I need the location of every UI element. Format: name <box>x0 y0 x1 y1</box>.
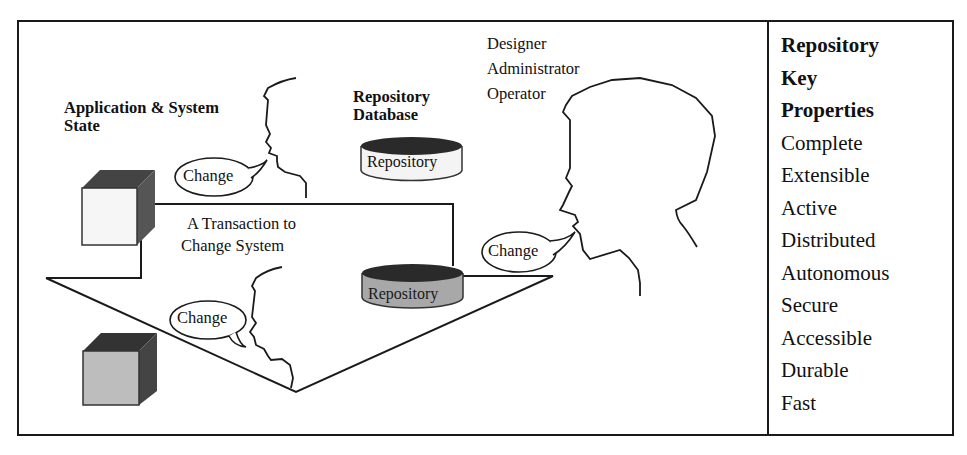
property-item: Distributed <box>781 224 890 257</box>
property-item: Extensible <box>781 159 890 192</box>
property-item: Autonomous <box>781 257 890 290</box>
person-silhouette-large <box>560 78 715 296</box>
person-silhouette-top <box>264 78 306 198</box>
transaction-label: A Transaction to Change System <box>181 213 296 257</box>
speech-text-bottom: Change <box>177 309 227 327</box>
app-state-label: Application & System State <box>64 99 219 136</box>
property-item: Complete <box>781 127 890 160</box>
properties-heading-line2: Key <box>781 62 890 95</box>
properties-heading-line3: Properties <box>781 94 890 127</box>
person-silhouette-bottom <box>250 267 293 388</box>
roles-label: Designer Administrator Operator <box>487 31 580 106</box>
properties-heading-line1: Repository <box>781 29 890 62</box>
property-item: Durable <box>781 354 890 387</box>
property-item: Fast <box>781 387 890 420</box>
cylinder-top-label: Repository <box>367 153 437 171</box>
property-item: Secure <box>781 289 890 322</box>
speech-text-right: Change <box>488 242 538 260</box>
speech-text-top: Change <box>183 167 233 185</box>
property-item: Active <box>781 192 890 225</box>
repository-database-label: Repository Database <box>353 88 430 125</box>
property-item: Accessible <box>781 322 890 355</box>
cylinder-bottom-label: Repository <box>368 285 438 303</box>
app-state-cube-icon <box>82 170 155 245</box>
changed-state-cube-icon <box>83 333 157 405</box>
properties-panel: Repository Key Properties Complete Exten… <box>781 29 890 419</box>
